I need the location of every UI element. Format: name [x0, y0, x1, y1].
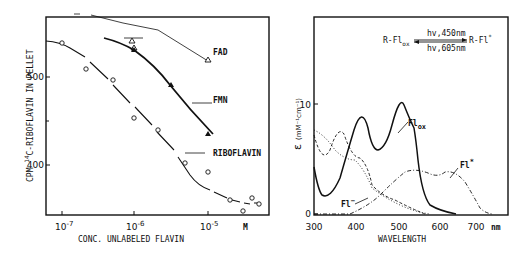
- label-flox: Flox: [408, 119, 427, 131]
- label-flstar: Fl*: [460, 158, 474, 170]
- label-flminus: Fl−: [341, 197, 355, 209]
- svg-text:hv,450nm: hv,450nm: [427, 29, 466, 38]
- right-xtick-300: 300: [305, 222, 322, 232]
- right-xunit: nm: [491, 223, 501, 232]
- series-fad: [74, 14, 211, 62]
- right-ylabel: ε(mM⁻¹cm⁻¹): [291, 98, 304, 150]
- right-xtick-600: 600: [431, 222, 448, 232]
- right-ytick-0: 0: [305, 209, 311, 219]
- left-xlabel: CONC. UNLABELED FLAVIN: [78, 235, 184, 244]
- right-xtick-400: 400: [347, 222, 364, 232]
- left-xtick-1e-7: 10-7: [55, 220, 73, 232]
- right-xtick-500: 500: [390, 222, 407, 232]
- label-riboflavin: RIBOFLAVIN: [213, 149, 261, 158]
- svg-text:hv,605nm: hv,605nm: [427, 44, 466, 53]
- right-xlabel: WAVELENGTH: [378, 235, 426, 244]
- right-plot-frame: [314, 17, 508, 215]
- reaction-annotation: R-Flox hv,450nm hv,605nm R-Fl*: [383, 29, 492, 53]
- series-flox: [314, 103, 456, 215]
- svg-text:R-Fl*: R-Fl*: [469, 33, 492, 45]
- right-panel: 10 0 300 400 500 600 700 nm WAVELENGTH ε…: [291, 17, 508, 244]
- label-fad: FAD: [213, 48, 228, 57]
- right-xtick-700: 700: [467, 222, 484, 232]
- figure: 500 400 10-7 10-6 10-5 M CONC. UNLABELED…: [0, 0, 531, 254]
- left-xtick-1e-5: 10-5: [200, 220, 218, 232]
- series-fmn: [104, 38, 213, 136]
- label-fmn: FMN: [213, 96, 228, 105]
- svg-text:R-Flox: R-Flox: [383, 36, 410, 47]
- left-plot-frame: [46, 17, 269, 215]
- left-panel: 500 400 10-7 10-6 10-5 M CONC. UNLABELED…: [23, 14, 269, 244]
- left-xtick-1e-6: 10-6: [126, 220, 145, 232]
- left-xunit: M: [243, 223, 248, 232]
